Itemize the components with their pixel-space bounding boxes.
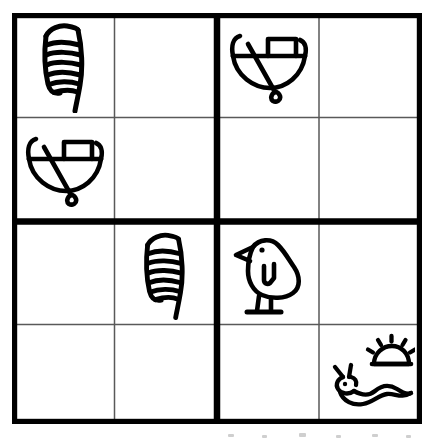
grid-lines bbox=[12, 13, 422, 424]
puzzle-page bbox=[0, 0, 433, 443]
sudoku-grid[interactable] bbox=[12, 13, 422, 424]
scan-artifact bbox=[0, 430, 433, 443]
